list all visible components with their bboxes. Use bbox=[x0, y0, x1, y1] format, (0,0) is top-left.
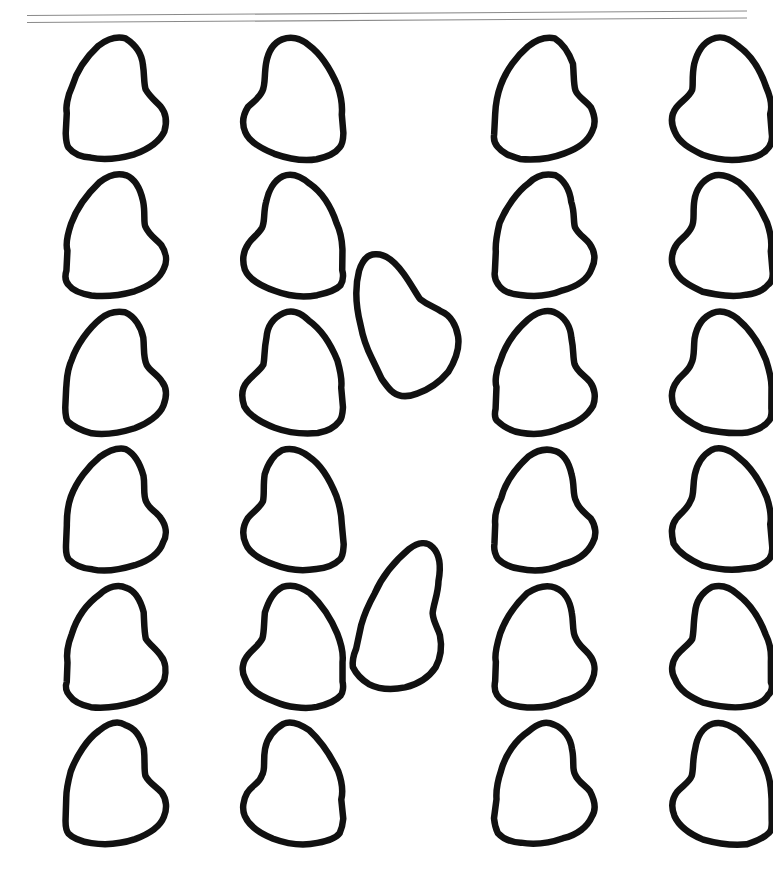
heart-r5-c4 bbox=[672, 586, 772, 708]
middle-heart-lower bbox=[348, 533, 466, 700]
heart-r4-c2 bbox=[243, 449, 343, 570]
heart-r2-c1 bbox=[65, 174, 166, 296]
heart-r6-c2 bbox=[243, 723, 343, 845]
heart-r3-c4 bbox=[672, 312, 772, 433]
heart-r6-c3 bbox=[494, 723, 595, 844]
heart-r4-c1 bbox=[66, 449, 166, 571]
heart-r1-c4 bbox=[672, 37, 772, 160]
rule-line-1 bbox=[27, 11, 747, 16]
heart-r5-c3 bbox=[495, 586, 595, 707]
heart-r6-c1 bbox=[66, 723, 167, 844]
heart-r5-c2 bbox=[243, 586, 343, 708]
rule-line-2 bbox=[27, 18, 747, 23]
heart-template-artwork bbox=[0, 0, 773, 877]
heart-r2-c2 bbox=[243, 175, 343, 296]
heart-r3-c3 bbox=[495, 311, 595, 434]
heart-r5-c1 bbox=[66, 586, 166, 708]
heart-r3-c1 bbox=[65, 312, 166, 434]
heart-r1-c1 bbox=[66, 38, 166, 159]
heart-r6-c4 bbox=[672, 723, 772, 845]
heart-r1-c3 bbox=[494, 38, 595, 160]
heart-r4-c4 bbox=[672, 448, 772, 569]
heart-r3-c2 bbox=[242, 311, 343, 433]
heart-r4-c3 bbox=[494, 450, 595, 571]
top-double-rule bbox=[27, 11, 747, 23]
middle-heart-upper bbox=[328, 236, 475, 406]
heart-shape-group bbox=[65, 37, 772, 844]
scanned-page bbox=[0, 0, 773, 877]
heart-r1-c2 bbox=[243, 38, 343, 160]
heart-r2-c4 bbox=[672, 175, 773, 296]
heart-r2-c3 bbox=[495, 174, 595, 295]
